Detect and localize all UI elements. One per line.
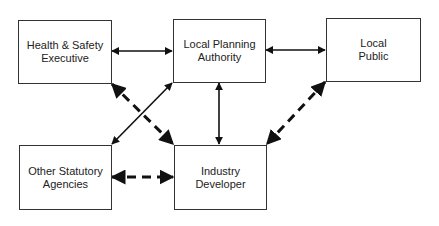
node-label-line: Agencies (28, 178, 103, 191)
node-other-statutory-agencies: Other StatutoryAgencies (19, 145, 112, 210)
node-label-line: Health & Safety (27, 39, 103, 52)
node-local-planning-authority: Local PlanningAuthority (173, 19, 266, 83)
node-label-line: Public (359, 50, 389, 63)
node-label-line: Executive (27, 52, 103, 65)
node-local-public: LocalPublic (326, 18, 421, 82)
node-label-line: Other Statutory (28, 165, 103, 178)
node-label-line: Authority (183, 51, 255, 64)
node-label-line: Local (359, 37, 389, 50)
node-label-line: Industry (195, 165, 245, 178)
node-industry-developer: IndustryDeveloper (174, 145, 267, 210)
node-label-line: Local Planning (183, 38, 255, 51)
node-health-safety-executive: Health & SafetyExecutive (18, 20, 112, 84)
edge-public-dev (267, 82, 325, 144)
edge-lpa-osa (112, 83, 172, 144)
node-label-line: Developer (195, 178, 245, 191)
